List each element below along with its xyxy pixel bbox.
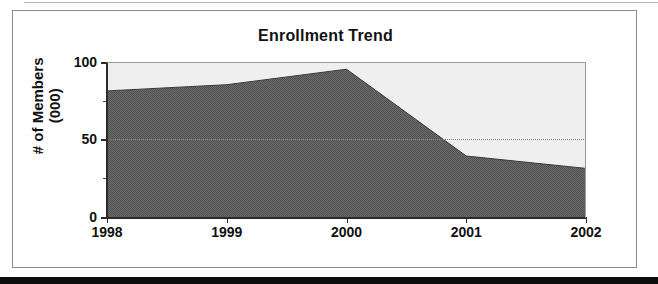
- y-tick-label-0: 0: [61, 210, 97, 224]
- chart-figure-frame: Enrollment Trend # of Members (000) 100 …: [12, 10, 637, 268]
- scan-artifact-bottom-bar: [0, 277, 658, 284]
- y-axis-title-line-1: # of Members: [30, 26, 47, 186]
- x-tick-label-2000: 2000: [307, 224, 387, 240]
- x-tick-label-1998: 1998: [67, 224, 147, 240]
- plot-area: [107, 63, 586, 218]
- y-axis-title: # of Members (000): [30, 26, 64, 186]
- plot-top-border: [107, 62, 586, 63]
- y-axis-title-line-2: (000): [47, 26, 64, 186]
- x-tick-label-2001: 2001: [426, 224, 506, 240]
- x-tick-mark-1999: [227, 218, 228, 223]
- scan-artifact-top-line: [24, 2, 658, 3]
- x-tick-mark-2001: [466, 218, 467, 223]
- area-series-polygon: [107, 69, 586, 218]
- chart-title: Enrollment Trend: [13, 27, 638, 45]
- y-tick-label-50: 50: [61, 132, 97, 146]
- x-tick-label-1999: 1999: [187, 224, 267, 240]
- y-axis-line: [106, 62, 108, 219]
- x-tick-label-2002: 2002: [546, 224, 626, 240]
- x-tick-mark-2000: [347, 218, 348, 223]
- gridline-50: [107, 139, 586, 140]
- plot-right-border: [585, 62, 586, 218]
- x-tick-mark-2002: [586, 218, 587, 223]
- area-series-svg: [107, 63, 586, 218]
- x-tick-mark-1998: [107, 218, 108, 223]
- y-tick-label-100: 100: [61, 55, 97, 69]
